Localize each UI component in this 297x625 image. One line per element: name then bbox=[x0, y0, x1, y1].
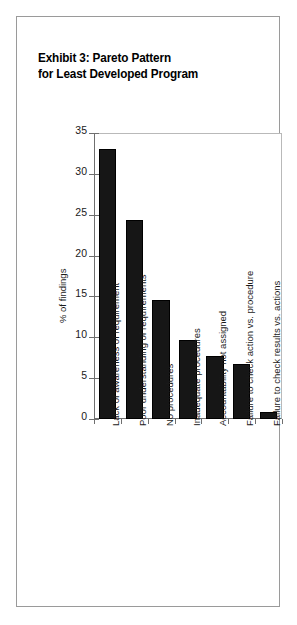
y-tick-label: 0 bbox=[81, 411, 87, 422]
chart-title-line-2: for Least Developed Program bbox=[38, 66, 245, 82]
y-tick-label: 5 bbox=[81, 370, 87, 381]
x-tick-mark bbox=[228, 419, 229, 424]
y-tick-label: 20 bbox=[75, 248, 87, 259]
x-axis-label-text: No procedures bbox=[165, 364, 175, 426]
x-axis-label-text: Failure to check action vs. procedure bbox=[245, 271, 255, 426]
x-tick-mark bbox=[282, 419, 283, 424]
x-axis-labels: Lack of awareness of requirementPoor und… bbox=[94, 426, 282, 606]
x-axis-label-text: Poor understanding of requirements bbox=[138, 274, 148, 426]
figure-card: Exhibit 3: Pareto Pattern for Least Deve… bbox=[16, 16, 280, 607]
y-tick-label: 35 bbox=[75, 125, 87, 136]
y-tick-label: 10 bbox=[75, 329, 87, 340]
x-axis-label-text: Accountability not assigned bbox=[218, 311, 228, 426]
x-axis-label-text: Failure to check results vs. actions bbox=[272, 281, 282, 426]
x-axis-label-text: Inadequate procedures bbox=[192, 328, 202, 426]
chart-title-line-1: Exhibit 3: Pareto Pattern bbox=[38, 50, 245, 66]
chart-title: Exhibit 3: Pareto Pattern for Least Deve… bbox=[38, 50, 258, 82]
y-axis-title: % of findings bbox=[47, 213, 61, 323]
y-axis-title-text: % of findings bbox=[58, 269, 68, 323]
x-tick-mark bbox=[255, 419, 256, 424]
x-axis-label-text: Lack of awareness of requirement bbox=[111, 283, 121, 426]
y-tick-label: 25 bbox=[75, 207, 87, 218]
y-tick-label: 30 bbox=[75, 166, 87, 177]
y-tick-label: 15 bbox=[75, 288, 87, 299]
x-tick-mark bbox=[94, 419, 95, 424]
